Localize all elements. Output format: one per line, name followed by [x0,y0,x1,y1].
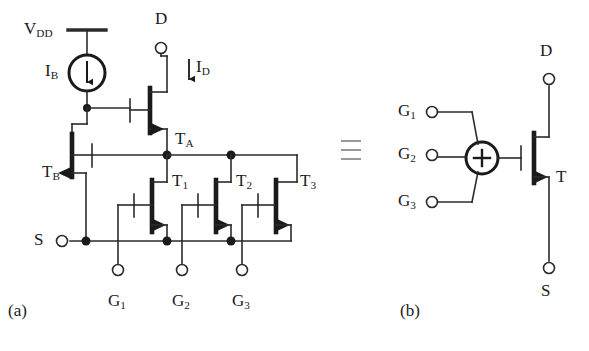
label-terminal-s-a: S [34,231,43,248]
ta-source-arrow-icon [151,123,164,135]
label-terminal-d-a: D [155,10,167,27]
terminal-g3-a[interactable] [237,265,248,276]
schematic-canvas [0,0,589,351]
terminal-g3-b[interactable] [427,197,438,208]
panel-label-b: (b) [400,302,420,319]
label-transistor-t2: T2 [236,172,252,191]
label-terminal-s-b: S [541,282,550,299]
junction-dot-t2-source [227,237,236,246]
terminal-g2-b[interactable] [427,150,438,161]
terminal-g1-a[interactable] [113,265,124,276]
panel-label-a: (a) [8,302,27,319]
label-id: ID [196,58,210,77]
label-ib: IB [45,62,58,81]
label-terminal-g3-a: G3 [232,292,250,311]
label-transistor-t1: T1 [172,172,188,191]
label-terminal-g1-a: G1 [108,292,126,311]
tb-source-arrow-icon [58,167,71,179]
g1-b-to-node [472,112,478,144]
terminal-g2-a[interactable] [177,265,188,276]
circuit-figure: VDD IB ID D S G1 G2 G3 TA TB T1 T2 T3 (a… [0,0,589,351]
label-transistor-t3: T3 [300,172,316,191]
junction-dot-s [82,237,91,246]
label-terminal-g2-a: G2 [172,292,190,311]
label-vdd: VDD [24,20,53,39]
terminal-d-b[interactable] [544,74,555,85]
terminal-s-a[interactable] [57,236,68,247]
g3-b-to-node [472,172,478,202]
junction-dot-t1-source [163,237,172,246]
label-terminal-g2-b: G2 [398,145,416,164]
terminal-s-b[interactable] [544,263,555,274]
label-terminal-g1-b: G1 [398,102,416,121]
label-terminal-g3-b: G3 [398,192,416,211]
equivalence-symbol [341,141,361,159]
label-transistor-t-b: T [556,168,566,185]
label-transistor-tb: TB [42,163,60,182]
label-transistor-ta: TA [175,130,194,149]
terminal-g1-b[interactable] [427,107,438,118]
terminal-d-a[interactable] [156,43,167,54]
label-terminal-d-b: D [540,42,552,59]
